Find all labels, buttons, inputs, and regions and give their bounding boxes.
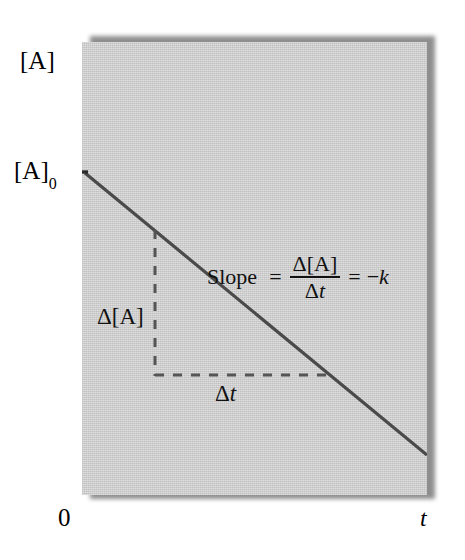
y-axis-initial-base: [A] (14, 157, 49, 184)
slope-equation-rate-constant: k (379, 264, 389, 290)
slope-equation-denominator: Δt (302, 278, 328, 302)
y-axis-initial-concentration-label: [A]0 (14, 158, 57, 188)
slope-equation: Slope = Δ[A] Δt = −k (207, 252, 389, 302)
slope-equation-word: Slope (207, 264, 257, 290)
delta-time-symbol: Δ (215, 381, 230, 406)
delta-time-label: Δt (215, 382, 236, 405)
slope-denominator-symbol: Δ (305, 278, 319, 303)
slope-equation-equals-first: = (269, 264, 281, 290)
figure-container: [A] [A]0 0 t Δ[A] Δt Slope = Δ[A] Δt = −… (0, 0, 465, 560)
delta-time-variable: t (230, 381, 236, 406)
x-axis-origin-label: 0 (58, 505, 71, 530)
slope-equation-fraction: Δ[A] Δt (290, 252, 341, 302)
delta-concentration-label: Δ[A] (97, 305, 144, 328)
slope-equation-equals-second: = (348, 264, 360, 290)
x-axis-label: t (420, 506, 427, 530)
slope-equation-negative-sign: − (367, 264, 379, 290)
slope-denominator-variable: t (319, 278, 325, 303)
y-axis-initial-subscript: 0 (49, 175, 57, 192)
slope-equation-numerator: Δ[A] (290, 252, 341, 276)
y-axis-label: [A] (20, 48, 55, 73)
